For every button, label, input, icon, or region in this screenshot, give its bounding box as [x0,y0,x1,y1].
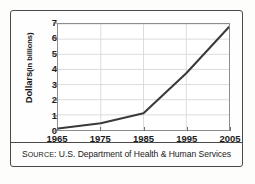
x-tick-mark [100,127,101,131]
x-tick-mark [57,127,58,131]
plot-area [57,23,230,131]
source-body: U.S. Department of Health & Human Servic… [59,149,231,159]
x-tick-mark [187,127,188,131]
chart-area: Dollars(in billions) 01234567 1965197519… [11,11,242,142]
source-text: SOURCE: U.S. Department of Health & Huma… [22,149,231,159]
plot-svg [58,24,229,130]
chart-figure: Dollars(in billions) 01234567 1965197519… [0,0,255,184]
source-row: SOURCE: U.S. Department of Health & Huma… [11,143,242,165]
y-axis-ticks: 01234567 [31,23,57,131]
chart-frame: Dollars(in billions) 01234567 1965197519… [10,10,243,167]
x-tick-mark [144,127,145,131]
source-prefix-smallcaps: OURCE [28,150,54,159]
x-tick-mark [230,127,231,131]
